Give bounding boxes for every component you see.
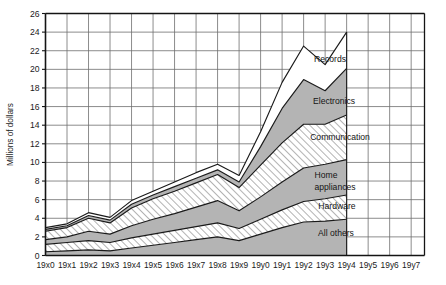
x-tick-label: 19x5 (144, 260, 163, 270)
y-axis-ticks: 02468101214161820222426 (30, 9, 46, 261)
x-tick-label: 19x6 (165, 260, 184, 270)
y-tick-label: 16 (30, 102, 40, 112)
y-tick-label: 12 (30, 139, 40, 149)
y-tick-label: 18 (30, 83, 40, 93)
x-tick-label: 19y3 (316, 260, 335, 270)
x-tick-label: 19y5 (359, 260, 378, 270)
y-tick-label: 26 (30, 9, 40, 19)
y-tick-label: 10 (30, 157, 40, 167)
y-tick-label: 2 (35, 232, 40, 242)
x-tick-label: 19x8 (208, 260, 227, 270)
x-tick-label: 19y2 (295, 260, 314, 270)
x-tick-label: 19y7 (402, 260, 421, 270)
series-label-communication: Communication (310, 132, 370, 142)
series-label-home: Home (315, 170, 338, 180)
y-tick-label: 4 (35, 213, 40, 223)
y-axis-title-text: Millions of dollars (6, 103, 15, 166)
y-tick-label: 0 (35, 251, 40, 261)
x-tick-label: 19y0 (252, 260, 271, 270)
x-tick-label: 19x7 (187, 260, 206, 270)
y-axis-title: Millions of dollars (6, 103, 15, 166)
series-label-appliances: appliances (314, 182, 355, 192)
x-tick-label: 19y4 (338, 260, 357, 270)
series-label-all-others: All others (318, 228, 354, 238)
x-axis-ticks: 19x019x119x219x319x419x519x619x719x819x9… (36, 260, 420, 270)
stacked-area-chart: 02468101214161820222426 19x019x119x219x3… (0, 0, 446, 285)
x-tick-label: 19y6 (381, 260, 400, 270)
y-tick-label: 8 (35, 176, 40, 186)
series-label-records: Records (314, 54, 346, 64)
y-tick-label: 20 (30, 64, 40, 74)
chart-canvas: 02468101214161820222426 19x019x119x219x3… (0, 0, 446, 285)
x-tick-label: 19x2 (79, 260, 98, 270)
x-tick-label: 19x0 (36, 260, 55, 270)
y-tick-label: 24 (30, 27, 40, 37)
y-tick-label: 6 (35, 195, 40, 205)
x-tick-label: 19x3 (101, 260, 120, 270)
y-tick-label: 22 (30, 46, 40, 56)
x-tick-label: 19x1 (58, 260, 77, 270)
series-label-electronics: Electronics (313, 96, 355, 106)
series-label-hardware: Hardware (318, 201, 355, 211)
y-tick-label: 14 (30, 120, 40, 130)
x-tick-label: 19y1 (273, 260, 292, 270)
x-tick-label: 19x9 (230, 260, 249, 270)
x-tick-label: 19x4 (122, 260, 141, 270)
